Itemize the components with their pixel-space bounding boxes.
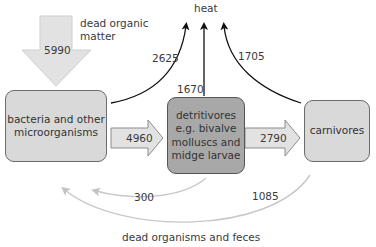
bacteria-node: bacteria and other microorganisms	[5, 90, 107, 162]
node-label-line: detritivores	[171, 109, 240, 123]
flow-value-bacteria-detritivores: 4960	[126, 132, 153, 145]
dead-organisms-feces-label: dead organisms and feces	[122, 231, 260, 244]
flow-value-detritivores-carnivores: 2790	[260, 132, 287, 145]
node-label-line: bacteria and other	[7, 113, 105, 127]
node-label-line: midge larvae	[171, 149, 240, 163]
node-label-line: carnivores	[310, 124, 365, 138]
detritivores-node: detritivores e.g. bivalve molluscs and m…	[167, 97, 245, 174]
label-line: matter	[80, 30, 149, 43]
heat-arrow-carnivores	[224, 26, 301, 103]
flow-value-carnivores-return: 1085	[252, 190, 279, 203]
heat-label: heat	[194, 2, 218, 15]
flow-value-detritivores-heat: 1670	[177, 83, 204, 96]
label-line: dead organic	[80, 17, 149, 30]
node-label-line: e.g. bivalve	[171, 122, 240, 136]
node-label-line: microorganisms	[7, 126, 105, 140]
energy-flow-diagram: bacteria and other microorganisms detrit…	[0, 0, 376, 247]
dead-organic-matter-label: dead organic matter	[80, 17, 149, 43]
node-label-line: molluscs and	[171, 136, 240, 150]
flow-value-carnivores-heat: 1705	[238, 50, 265, 63]
flow-value-detritivores-return: 300	[134, 191, 154, 204]
carnivores-node: carnivores	[304, 100, 370, 162]
flow-value-bacteria-heat: 2625	[152, 52, 179, 65]
flow-value-input: 5990	[44, 44, 71, 57]
